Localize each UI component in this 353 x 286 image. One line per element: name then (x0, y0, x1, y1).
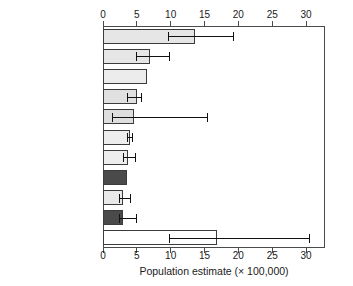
error-cap-low (112, 113, 113, 122)
x-axis-tick-top (306, 21, 307, 26)
x-axis-title: Population estimate (× 100,000) (103, 265, 325, 277)
x-tick-label-bottom-30: 30 (300, 250, 311, 262)
x-tick-label-top-5: 5 (134, 9, 140, 21)
error-cap-low (123, 153, 124, 162)
error-bar-denmark (112, 117, 207, 118)
x-axis-tick-top (272, 21, 273, 26)
x-axis-tick-top (170, 21, 171, 26)
x-axis-tick-top (238, 21, 239, 26)
x-tick-label-bottom-5: 5 (134, 250, 140, 262)
x-tick-label-bottom-20: 20 (233, 250, 244, 262)
error-cap-low (127, 93, 128, 102)
error-cap-low (169, 234, 170, 243)
error-bar-spain (127, 97, 141, 98)
x-axis-tick-top (136, 21, 137, 26)
error-cap-high (233, 32, 234, 41)
error-cap-high (207, 113, 208, 122)
error-cap-high (132, 133, 133, 142)
error-cap-low (119, 194, 120, 203)
error-bar-poland (168, 36, 233, 37)
x-tick-label-top-20: 20 (233, 9, 244, 21)
error-cap-low (119, 214, 120, 223)
error-cap-low (136, 52, 137, 61)
error-cap-high (169, 52, 170, 61)
x-tick-label-top-30: 30 (300, 9, 311, 21)
error-cap-low (168, 32, 169, 41)
error-cap-high (141, 93, 142, 102)
error-bar-germany (119, 218, 136, 219)
x-tick-label-bottom-15: 15 (199, 250, 210, 262)
x-tick-label-bottom-0: 0 (100, 250, 106, 262)
x-tick-label-top-0: 0 (100, 9, 106, 21)
error-cap-high (130, 194, 131, 203)
x-tick-label-bottom-10: 10 (165, 250, 176, 262)
bar-ukraine (103, 170, 127, 185)
x-tick-label-bottom-25: 25 (267, 250, 278, 262)
error-cap-high (135, 153, 136, 162)
error-cap-low (127, 133, 128, 142)
x-axis-tick-top (204, 21, 205, 26)
bar-belarus (103, 130, 130, 145)
x-tick-label-top-25: 25 (267, 9, 278, 21)
population-estimate-bar-chart: 005510101515202025253030 POLANDROMANIAUN… (0, 0, 353, 286)
x-tick-label-top-10: 10 (165, 9, 176, 21)
error-cap-high (136, 214, 137, 223)
error-bar-latvia (123, 157, 135, 158)
error-bar-romania (136, 56, 169, 57)
error-bar-finland (119, 198, 130, 199)
x-tick-label-top-15: 15 (199, 9, 210, 21)
x-axis-tick-top (103, 21, 104, 26)
error-cap-high (309, 234, 310, 243)
error-bar-other-countries (169, 238, 310, 239)
bar-united-kingdom (103, 69, 147, 84)
